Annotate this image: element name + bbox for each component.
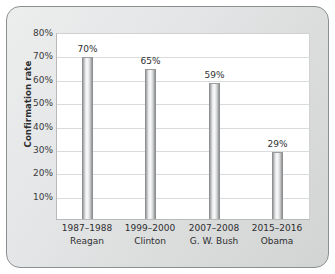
y-axis-tick-labels: 80% 70% 60% 50% 40% 30% 20% 10% bbox=[7, 33, 53, 220]
bar-reagan bbox=[82, 57, 93, 219]
bar-value-label: 70% bbox=[77, 44, 97, 54]
gridline bbox=[57, 81, 309, 82]
y-tick-label: 70% bbox=[9, 51, 53, 61]
bar-obama bbox=[272, 152, 283, 219]
y-tick-label: 80% bbox=[9, 28, 53, 38]
bar-clinton bbox=[145, 69, 156, 219]
y-tick-label: 20% bbox=[9, 168, 53, 178]
chart-figure: Confirmation rate 80% 70% 60% 50% 40% 30… bbox=[6, 6, 329, 268]
y-tick-label: 60% bbox=[9, 75, 53, 85]
bar-value-label: 59% bbox=[204, 70, 224, 80]
gridline bbox=[57, 104, 309, 105]
x-tick-president: Clinton bbox=[113, 235, 187, 248]
bar-gwbush bbox=[209, 83, 220, 219]
gridline bbox=[57, 128, 309, 129]
x-tick-period: 1999–2000 bbox=[113, 222, 187, 235]
y-tick-label: 10% bbox=[9, 192, 53, 202]
gridline bbox=[57, 57, 309, 58]
x-tick-period: 2015–2016 bbox=[240, 222, 314, 235]
x-tick-president: Obama bbox=[240, 235, 314, 248]
y-tick-label: 30% bbox=[9, 145, 53, 155]
x-tick-label-clinton: 1999–2000 Clinton bbox=[113, 222, 187, 248]
bar-value-label: 65% bbox=[140, 56, 160, 66]
bar-value-label: 29% bbox=[267, 139, 287, 149]
y-tick-label: 40% bbox=[9, 122, 53, 132]
y-tick-label: 50% bbox=[9, 98, 53, 108]
plot-area: 70% 65% 59% 29% bbox=[56, 33, 310, 220]
x-tick-label-obama: 2015–2016 Obama bbox=[240, 222, 314, 248]
x-axis-tick-labels: 1987–1988 Reagan 1999–2000 Clinton 2007–… bbox=[56, 222, 310, 264]
